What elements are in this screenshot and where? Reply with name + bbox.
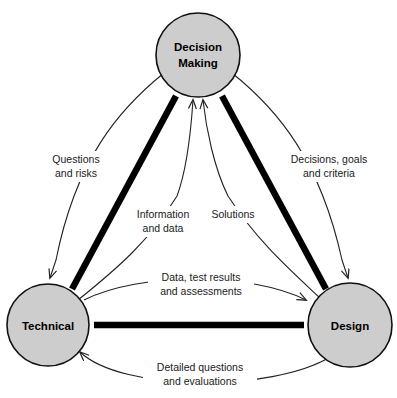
- edge-label-detailed-line2: and evaluations: [163, 375, 237, 387]
- edge-label-information-line1: Information: [137, 208, 190, 220]
- edge-label-information-and-data: Information and data: [126, 206, 200, 237]
- diagram-svg: Decision Making Technical Design Questio…: [0, 0, 397, 398]
- diagram-canvas: Decision Making Technical Design Questio…: [0, 0, 397, 398]
- node-technical[interactable]: Technical: [7, 284, 89, 366]
- edge-label-data-test-results: Data, test results and assessments: [148, 269, 254, 300]
- edge-label-detailed-questions: Detailed questions and evaluations: [143, 359, 257, 390]
- node-decision-making-label-line2: Making: [178, 57, 218, 69]
- edge-label-data-line1: Data, test results: [162, 271, 241, 283]
- edge-label-data-line2: and assessments: [160, 285, 242, 297]
- edge-label-decisions-goals-and-criteria: Decisions, goals and criteria: [280, 151, 378, 182]
- edge-label-questions-line1: Questions: [52, 153, 99, 165]
- edge-label-solutions: Solutions: [204, 206, 262, 223]
- edge-label-detailed-line1: Detailed questions: [157, 361, 243, 373]
- node-decision-making-label-line1: Decision: [174, 41, 222, 53]
- thick-link-decision-design: [222, 96, 326, 289]
- edge-label-solutions-text: Solutions: [211, 208, 254, 220]
- node-technical-label: Technical: [22, 320, 74, 332]
- edge-label-questions-and-risks: Questions and risks: [36, 151, 118, 182]
- node-design[interactable]: Design: [308, 283, 392, 367]
- edge-label-information-line2: and data: [143, 222, 184, 234]
- edge-label-decisions-line1: Decisions, goals: [291, 153, 367, 165]
- edge-label-questions-line2: and risks: [55, 167, 97, 179]
- node-decision-making[interactable]: Decision Making: [156, 13, 240, 97]
- node-design-label: Design: [331, 320, 369, 332]
- edge-label-decisions-line2: and criteria: [303, 167, 355, 179]
- node-decision-making-circle[interactable]: [156, 13, 240, 97]
